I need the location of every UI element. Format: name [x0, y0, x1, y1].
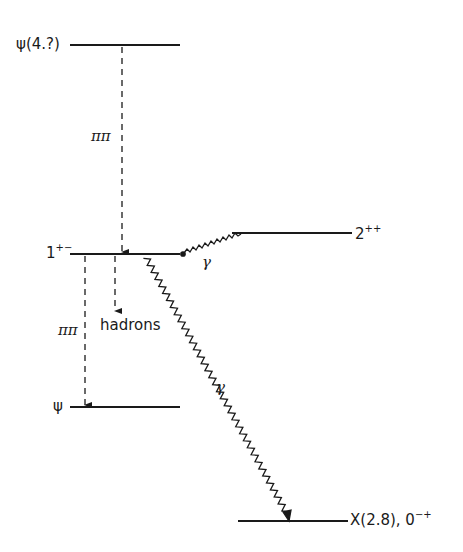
level-label-1pm-sup: +−: [56, 242, 73, 253]
level-label-psi: ψ: [53, 399, 63, 414]
transition-label-hadrons: hadrons: [100, 318, 161, 333]
transition-label-gamma-2pp: γ: [202, 255, 211, 270]
level-label-psi-text: ψ: [53, 397, 63, 415]
level-label-2pp-sup: ++: [365, 223, 382, 234]
gamma-arrowhead-x28: [283, 510, 291, 521]
transition-label-pipi-upper: ππ: [91, 129, 111, 144]
level-label-x28-base: X(2.8), 0: [350, 511, 415, 529]
level-label-2pp-base: 2: [355, 225, 365, 243]
transition-label-gamma-x28: γ: [216, 380, 225, 395]
level-diagram: [0, 0, 463, 552]
level-label-psi4-text: ψ(4.?): [16, 35, 60, 53]
level-label-2pp: 2++: [355, 227, 381, 242]
level-label-1pm: 1+−: [46, 246, 72, 261]
transition-label-pipi-lower: ππ: [58, 323, 78, 338]
level-label-psi4: ψ(4.?): [16, 37, 60, 52]
level-label-x28: X(2.8), 0−+: [350, 513, 432, 528]
level-label-x28-sup: −+: [415, 509, 432, 520]
level-label-1pm-base: 1: [46, 244, 56, 262]
gamma-wavy-line-to-2pp: [184, 233, 241, 253]
